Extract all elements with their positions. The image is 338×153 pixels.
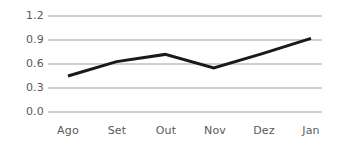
gridlines (48, 16, 322, 112)
line-chart: 1.2 0.9 0.6 0.3 0.0 Ago Set Out Nov Dez … (0, 0, 338, 153)
x-axis-tick-label-out: Out (156, 125, 177, 136)
x-axis-tick-label-nov: Nov (204, 125, 226, 136)
x-axis-tick-label-set: Set (108, 125, 127, 136)
x-axis-tick-label-ago: Ago (57, 125, 79, 136)
x-axis-tick-label-jan: Jan (302, 125, 320, 136)
data-series-line (68, 38, 311, 76)
x-axis-tick-label-dez: Dez (253, 125, 275, 136)
